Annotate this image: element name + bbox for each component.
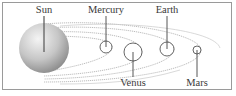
solar-system-diagram: Sun Mercury Venus Earth Mars <box>0 0 236 96</box>
sun: Sun <box>19 4 69 73</box>
mars: Mars <box>186 46 208 88</box>
mars-label: Mars <box>186 77 208 88</box>
earth-label: Earth <box>156 4 179 15</box>
venus-label: Venus <box>120 77 146 88</box>
sun-label: Sun <box>36 4 53 15</box>
mercury-label: Mercury <box>88 4 125 15</box>
orbit-outer-1 <box>60 24 220 48</box>
mercury: Mercury <box>88 4 125 53</box>
